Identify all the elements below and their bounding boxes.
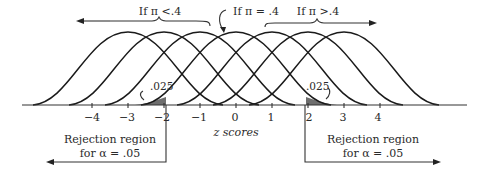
reject-left-line2: for α = .05 [80, 147, 141, 160]
reject-right-arrowhead [433, 159, 441, 165]
label-pi-equal: If π = .4 [233, 5, 279, 18]
reject-left-line1: Rejection region [64, 133, 156, 146]
tick-label: −4 [84, 111, 100, 124]
tick-label: 2 [306, 111, 313, 124]
left-tail-shade [135, 97, 166, 105]
tick-label: 4 [375, 111, 382, 124]
label-pi-less: If π <.4 [139, 5, 181, 18]
tick-label: 3 [340, 111, 347, 124]
tail-right-label: .025 [306, 80, 329, 92]
tick-label: −3 [119, 111, 135, 124]
axis-title: z scores [212, 126, 258, 139]
label-pi-greater: If π >.4 [297, 5, 339, 18]
tail-left-label: .025 [150, 80, 173, 92]
brace-right [265, 19, 370, 27]
tick-label: −2 [154, 111, 170, 124]
right-tail-shade [306, 97, 337, 105]
reject-left-arrowhead [46, 159, 54, 165]
sampling-distribution-diagram: −4 −3 −2 −1 0 1 2 3 4 z scores If π <.4 … [0, 0, 487, 177]
reject-right-line2: for α = .05 [343, 147, 404, 160]
reject-right-line1: Rejection region [327, 133, 419, 146]
tail-left-pointer [140, 91, 144, 100]
brace-left [110, 17, 210, 26]
tick-label: 1 [268, 111, 275, 124]
arrow-left-head [76, 18, 84, 24]
tick-label: 0 [232, 111, 239, 124]
tick-labels: −4 −3 −2 −1 0 1 2 3 4 [84, 111, 382, 124]
pointer-center-head [220, 27, 226, 33]
arrow-right-head [369, 20, 377, 26]
tick-label: −1 [191, 111, 207, 124]
normal-curves [33, 32, 439, 105]
